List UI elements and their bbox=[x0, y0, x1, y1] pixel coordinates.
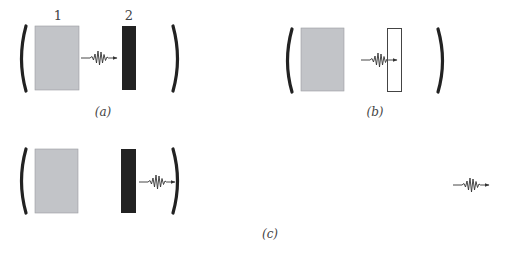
left-mirror bbox=[288, 29, 293, 92]
gray-block-1 bbox=[35, 26, 79, 90]
diagram-canvas: 1 2 (a) (b) (c) bbox=[0, 0, 508, 257]
panel-b: (b) bbox=[288, 28, 443, 119]
panel-c: (c) bbox=[22, 149, 490, 241]
right-mirror bbox=[173, 26, 178, 91]
wave-packet-icon bbox=[139, 175, 175, 189]
label-2: 2 bbox=[125, 8, 133, 23]
right-mirror bbox=[438, 29, 443, 92]
wave-packet-icon bbox=[361, 53, 397, 67]
free-wave-packet-icon bbox=[453, 178, 489, 192]
caption-c: (c) bbox=[262, 227, 278, 241]
left-mirror bbox=[22, 26, 27, 91]
left-mirror bbox=[22, 149, 27, 213]
label-1: 1 bbox=[54, 8, 62, 23]
gray-block bbox=[301, 28, 344, 91]
wave-packet-icon bbox=[81, 51, 117, 65]
caption-a: (a) bbox=[95, 105, 112, 119]
black-block-2 bbox=[122, 26, 136, 90]
black-block bbox=[121, 149, 136, 213]
caption-b: (b) bbox=[366, 105, 383, 119]
right-mirror bbox=[173, 149, 178, 213]
gray-block bbox=[35, 149, 78, 213]
panel-a: 1 2 (a) bbox=[22, 8, 178, 119]
